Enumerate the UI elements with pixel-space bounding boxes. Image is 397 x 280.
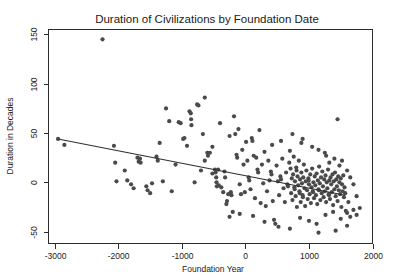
data-point: [293, 179, 297, 183]
data-point: [323, 213, 327, 217]
data-point: [250, 139, 254, 143]
data-point: [337, 188, 341, 192]
data-point: [289, 191, 293, 195]
data-point: [123, 168, 127, 172]
data-point: [333, 170, 337, 174]
data-point: [272, 218, 276, 222]
data-point: [241, 163, 245, 167]
data-point: [259, 201, 263, 205]
data-point: [256, 170, 260, 174]
data-point: [189, 111, 193, 115]
data-point: [100, 37, 104, 41]
x-tick-label: -3000: [45, 251, 67, 261]
data-point: [112, 144, 116, 148]
data-point: [223, 175, 227, 179]
data-point: [306, 197, 310, 201]
data-point: [327, 161, 331, 165]
data-point: [158, 141, 162, 145]
data-point: [351, 182, 355, 186]
y-tick-label: -50: [29, 226, 39, 239]
data-point: [170, 189, 174, 193]
y-tick-label: 0: [29, 180, 39, 185]
data-point: [276, 225, 280, 229]
data-point: [113, 161, 117, 165]
data-point: [348, 175, 352, 179]
data-point: [114, 179, 118, 183]
data-point: [297, 159, 301, 163]
data-point: [326, 167, 330, 171]
data-point: [214, 175, 218, 179]
data-point: [320, 169, 324, 173]
data-point: [251, 214, 255, 218]
data-point: [301, 195, 305, 199]
data-point: [325, 186, 329, 190]
data-point: [335, 117, 339, 121]
data-point: [290, 198, 294, 202]
data-point: [227, 215, 231, 219]
data-point: [210, 145, 214, 149]
data-point: [196, 103, 200, 107]
data-point: [339, 205, 343, 209]
data-point: [348, 215, 352, 219]
y-tick-label: 50: [29, 129, 39, 139]
data-point: [189, 117, 193, 121]
y-tick-label: 100: [29, 77, 39, 91]
data-point: [144, 184, 148, 188]
data-point: [243, 190, 247, 194]
data-point: [288, 227, 292, 231]
data-point: [236, 127, 240, 131]
data-point: [324, 154, 328, 158]
data-point: [284, 170, 288, 174]
data-point: [337, 163, 341, 167]
data-point: [238, 182, 242, 186]
data-point: [316, 148, 320, 152]
data-point: [310, 145, 314, 149]
data-point: [331, 210, 335, 214]
data-point: [247, 178, 251, 182]
data-point: [231, 210, 235, 214]
data-point: [138, 157, 142, 161]
data-point: [227, 134, 231, 138]
data-point: [269, 172, 273, 176]
data-point: [332, 157, 336, 161]
data-point: [294, 194, 298, 198]
data-point: [262, 150, 266, 154]
data-point: [288, 149, 292, 153]
data-point: [260, 163, 264, 167]
data-point: [232, 114, 236, 118]
y-axis-title: Duration in Decades: [5, 97, 15, 174]
data-point: [193, 180, 197, 184]
data-point: [321, 184, 325, 188]
data-point: [185, 144, 189, 148]
data-point: [132, 186, 136, 190]
data-point: [316, 231, 320, 235]
data-point: [295, 205, 299, 209]
data-point: [346, 200, 350, 204]
data-point: [62, 143, 66, 147]
x-axis-title: Foundation Year: [182, 264, 244, 274]
data-point: [340, 159, 344, 163]
data-point: [219, 185, 223, 189]
chart-title: Duration of Civilizations by Foundation …: [95, 13, 319, 25]
data-point: [262, 220, 266, 224]
data-point: [321, 195, 325, 199]
data-point: [203, 159, 207, 163]
data-point: [239, 192, 243, 196]
data-point: [273, 222, 277, 226]
data-point: [318, 181, 322, 185]
data-point: [299, 200, 303, 204]
data-point: [288, 166, 292, 170]
data-point: [287, 161, 291, 165]
data-point: [300, 181, 304, 185]
data-point: [148, 191, 152, 195]
x-tick-label: -2000: [108, 251, 130, 261]
data-point: [339, 217, 343, 221]
data-point: [279, 139, 283, 143]
data-point: [293, 187, 297, 191]
data-point: [261, 181, 265, 185]
data-point: [342, 185, 346, 189]
x-tick-label: -1000: [172, 251, 194, 261]
data-point: [150, 181, 154, 185]
data-point: [302, 163, 306, 167]
data-point: [355, 213, 359, 217]
